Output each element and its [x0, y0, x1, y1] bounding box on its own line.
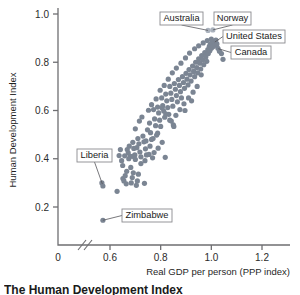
data-point [174, 65, 179, 70]
annotation-leader-line [182, 25, 209, 30]
data-point [158, 88, 163, 93]
data-point [114, 189, 119, 194]
data-point [181, 101, 186, 106]
data-point [165, 105, 170, 110]
data-point [117, 153, 122, 158]
annotation-label: Liberia [81, 150, 110, 160]
annotation-label: United States [226, 31, 282, 41]
data-point [124, 169, 129, 174]
data-point [170, 70, 175, 75]
data-point [169, 97, 174, 102]
data-point [179, 95, 184, 100]
y-axis-title: Human Development Index [7, 72, 18, 187]
data-point [190, 90, 195, 95]
data-point [138, 161, 143, 166]
figure-caption: The Human Development Index [4, 283, 183, 295]
y-axis-tick-label: 0.6 [35, 105, 49, 116]
data-point [167, 84, 172, 89]
data-point [168, 91, 173, 96]
annotation-label: Zimbabwe [126, 210, 169, 220]
data-point [142, 181, 147, 186]
data-point [134, 183, 139, 188]
data-point [198, 66, 203, 71]
data-point [204, 59, 209, 64]
data-point [158, 124, 163, 129]
x-axis-tick-label: 1.2 [255, 252, 269, 263]
data-point [150, 136, 155, 141]
data-point [182, 108, 187, 113]
data-point [173, 87, 178, 92]
data-point [160, 140, 165, 145]
annotation-leader-line [95, 162, 103, 184]
data-point [120, 163, 125, 168]
y-axis-tick-label: 1.0 [35, 9, 49, 20]
data-point [143, 138, 148, 143]
data-point [100, 183, 105, 188]
annotation-leader-line [213, 25, 233, 30]
data-point [140, 133, 145, 138]
data-point [163, 155, 168, 160]
data-point [187, 50, 192, 55]
data-point [167, 118, 172, 123]
x-axis-title: Real GDP per person (PPP index) [146, 266, 290, 277]
data-point [164, 98, 169, 103]
data-point [177, 107, 182, 112]
data-point [118, 147, 123, 152]
data-point [172, 81, 177, 86]
data-point [162, 83, 167, 88]
data-point [159, 95, 164, 100]
data-point [124, 181, 129, 186]
data-point [166, 77, 171, 82]
data-point [149, 102, 154, 107]
data-point [136, 172, 141, 177]
data-point [156, 146, 161, 151]
x-axis-tick-label: 1.0 [204, 252, 218, 263]
data-point [137, 149, 142, 154]
data-point [220, 57, 225, 62]
data-points [99, 36, 225, 222]
annotation-label: Norway [217, 13, 249, 23]
data-point [134, 145, 139, 150]
data-point [151, 150, 156, 155]
data-point [130, 140, 135, 145]
data-point [143, 146, 148, 151]
data-point [173, 113, 178, 118]
data-point [119, 158, 124, 163]
data-point [155, 105, 160, 110]
data-point [188, 78, 193, 83]
data-point [154, 96, 159, 101]
data-point [137, 119, 142, 124]
x-axis-origin-label: 0 [55, 252, 61, 263]
data-point [153, 123, 158, 128]
data-point [209, 36, 214, 41]
data-point [196, 43, 201, 48]
data-point [146, 108, 151, 113]
data-point [148, 130, 153, 135]
data-point [199, 72, 204, 77]
data-point [138, 154, 143, 159]
data-point [127, 144, 132, 149]
data-point [155, 131, 160, 136]
y-axis-tick-label: 0.8 [35, 57, 49, 68]
data-point [183, 55, 188, 60]
x-axis-tick-label: 0.6 [103, 252, 117, 263]
data-point [129, 180, 134, 185]
y-axis-tick-label: 0.4 [35, 153, 49, 164]
data-point [147, 120, 152, 125]
y-axis-tick-label: 0.2 [35, 202, 49, 213]
data-point [178, 61, 183, 66]
data-point [152, 116, 157, 121]
data-point [178, 89, 183, 94]
data-point [170, 104, 175, 109]
data-point [219, 51, 224, 56]
data-point [171, 124, 176, 129]
data-point [175, 99, 180, 104]
data-point [135, 178, 140, 183]
data-point [147, 144, 152, 149]
data-point [157, 118, 162, 123]
data-point [146, 152, 151, 157]
data-point [210, 27, 215, 32]
data-point [163, 111, 168, 116]
annotation-label: Australia [163, 13, 200, 23]
data-point [163, 91, 168, 96]
